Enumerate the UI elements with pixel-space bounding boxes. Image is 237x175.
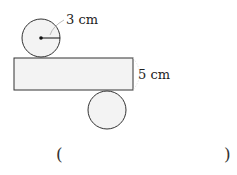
radius-label: 3 cm — [66, 12, 98, 27]
cylinder-net-diagram: 3 cm 5 cm ( ) — [0, 0, 237, 175]
answer-open-paren: ( — [56, 144, 63, 164]
lateral-face-rectangle — [14, 58, 133, 90]
bottom-base-circle — [88, 91, 126, 129]
answer-close-paren: ) — [224, 144, 231, 164]
height-label: 5 cm — [138, 67, 170, 82]
